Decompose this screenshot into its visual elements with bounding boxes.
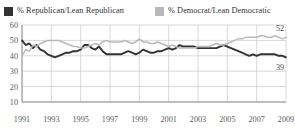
- plot-area: 102030405060 199119931995199719992001200…: [0, 20, 295, 130]
- legend-swatch-republican: [4, 7, 13, 16]
- y-tick-label: 20: [10, 83, 18, 92]
- x-tick-labels: 1991199319951997199920012003200520072009: [14, 115, 294, 124]
- y-tick-labels: 102030405060: [10, 21, 18, 107]
- x-tick-label: 2001: [160, 115, 176, 124]
- x-tick-label: 1991: [14, 115, 30, 124]
- y-gridlines: [22, 25, 286, 102]
- x-tick-label: 1993: [43, 115, 59, 124]
- y-tick-label: 50: [10, 36, 18, 45]
- y-tick-label: 40: [10, 52, 18, 61]
- x-tick-label: 1997: [102, 115, 118, 124]
- chart-container: % Republican/Lean Republican % Democrat/…: [0, 0, 295, 130]
- end-label-republican: 39: [276, 63, 284, 72]
- x-tick-label: 2007: [248, 115, 264, 124]
- legend-label-republican: % Republican/Lean Republican: [17, 6, 124, 16]
- legend-swatch-democratic: [155, 7, 164, 16]
- x-gridlines: [22, 25, 286, 102]
- x-tick-label: 1999: [131, 115, 147, 124]
- end-value-labels: 5239: [276, 24, 284, 72]
- y-tick-label: 30: [10, 67, 18, 76]
- series-lines: [22, 36, 286, 58]
- legend-label-democratic: % Democrat/Lean Democratic: [168, 6, 271, 16]
- x-tick-label: 2005: [219, 115, 235, 124]
- x-tick-label: 1995: [72, 115, 88, 124]
- x-tick-label: 2009: [278, 115, 294, 124]
- y-tick-label: 60: [10, 21, 18, 30]
- line-chart-svg: 102030405060 199119931995199719992001200…: [0, 20, 295, 130]
- legend-item-republican: % Republican/Lean Republican: [4, 5, 124, 17]
- y-tick-label: 10: [10, 98, 18, 107]
- end-label-democratic: 52: [276, 24, 284, 33]
- axis-lines: [22, 25, 286, 102]
- x-tick-label: 2003: [190, 115, 206, 124]
- chart-legend: % Republican/Lean Republican % Democrat/…: [0, 3, 295, 20]
- legend-item-democratic: % Democrat/Lean Democratic: [155, 5, 271, 17]
